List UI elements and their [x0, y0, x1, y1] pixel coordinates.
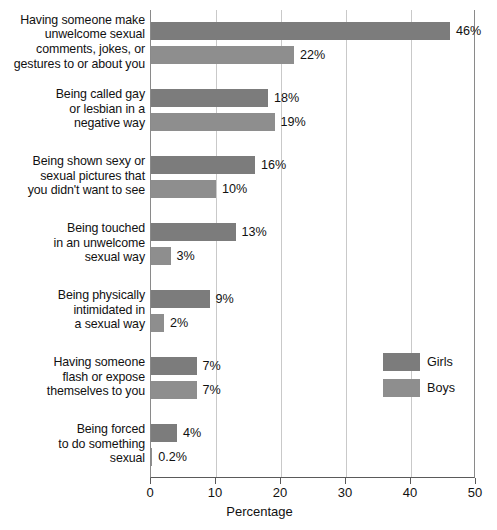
- legend-item-girls: Girls: [383, 352, 455, 371]
- bar-value-girls-1: 18%: [268, 89, 299, 107]
- category-label-2: Being shown sexy orsexual pictures thaty…: [0, 154, 145, 198]
- category-label-line: Being touched: [0, 221, 145, 236]
- legend-label-boys: Boys: [427, 381, 455, 395]
- category-label-line: themselves to you: [0, 384, 145, 399]
- category-label-line: sexual pictures that: [0, 169, 145, 184]
- x-tick-label-40: 40: [403, 485, 417, 500]
- bar-girls-6: [151, 424, 177, 442]
- category-label-5: Having someoneflash or exposethemselves …: [0, 355, 145, 399]
- bar-boys-0: [151, 46, 294, 64]
- x-tick-label-0: 0: [146, 485, 153, 500]
- legend-label-girls: Girls: [427, 355, 453, 369]
- category-label-4: Being physicallyintimidated ina sexual w…: [0, 288, 145, 332]
- bar-value-boys-3: 3%: [171, 247, 195, 265]
- x-axis-title-text: Percentage: [226, 504, 293, 519]
- category-label-line: intimidated in: [0, 303, 145, 318]
- bar-value-girls-5: 7%: [197, 357, 221, 375]
- bar-value-girls-0: 46%: [450, 22, 481, 40]
- category-label-0: Having someone makeunwelcome sexualcomme…: [0, 13, 145, 71]
- category-label-line: Being called gay: [0, 87, 145, 102]
- category-label-line: to do something: [0, 437, 145, 452]
- bar-value-boys-1: 19%: [275, 113, 306, 131]
- gridline-10: [216, 10, 217, 477]
- category-label-line: Being physically: [0, 288, 145, 303]
- x-tick-label-20: 20: [273, 485, 287, 500]
- bar-value-boys-4: 2%: [164, 314, 188, 332]
- bar-boys-2: [151, 180, 216, 198]
- category-label-line: or lesbian in a: [0, 102, 145, 117]
- category-label-line: a sexual way: [0, 317, 145, 332]
- bar-value-boys-2: 10%: [216, 180, 247, 198]
- bar-value-boys-6: 0.2%: [152, 448, 187, 466]
- legend-swatch-boys: [383, 379, 420, 397]
- bar-boys-1: [151, 113, 275, 131]
- category-label-line: in an unwelcome: [0, 236, 145, 251]
- bar-girls-4: [151, 290, 210, 308]
- plot-area: 46%22%18%19%16%10%13%3%9%2%7%7%4%0.2%: [150, 10, 475, 478]
- bar-value-boys-0: 22%: [294, 46, 325, 64]
- category-label-line: flash or expose: [0, 370, 145, 385]
- x-axis-title: Percentage: [0, 504, 497, 519]
- bar-girls-3: [151, 223, 236, 241]
- x-tick-label-30: 30: [338, 485, 352, 500]
- x-tick-label-10: 10: [208, 485, 222, 500]
- category-label-line: you didn't want to see: [0, 183, 145, 198]
- x-tick-label-50: 50: [468, 485, 482, 500]
- category-label-line: unwelcome sexual: [0, 27, 145, 42]
- chart-legend: Girls Boys: [383, 352, 455, 404]
- category-label-1: Being called gayor lesbian in anegative …: [0, 87, 145, 131]
- x-tick-30: [345, 478, 346, 484]
- x-tick-0: [150, 478, 151, 484]
- bar-value-boys-5: 7%: [197, 381, 221, 399]
- gridline-20: [281, 10, 282, 477]
- bar-boys-3: [151, 247, 171, 265]
- category-label-line: Being forced: [0, 422, 145, 437]
- legend-item-boys: Boys: [383, 378, 455, 397]
- bar-girls-2: [151, 156, 255, 174]
- x-tick-20: [280, 478, 281, 484]
- category-label-line: negative way: [0, 116, 145, 131]
- bar-chart: Having someone makeunwelcome sexualcomme…: [0, 0, 497, 530]
- x-tick-40: [410, 478, 411, 484]
- bar-value-girls-4: 9%: [210, 290, 234, 308]
- category-label-line: sexual way: [0, 250, 145, 265]
- category-label-line: Having someone make: [0, 13, 145, 28]
- gridline-40: [411, 10, 412, 477]
- bar-value-girls-6: 4%: [177, 424, 201, 442]
- bar-boys-5: [151, 381, 197, 399]
- bar-boys-4: [151, 314, 164, 332]
- category-label-line: Being shown sexy or: [0, 154, 145, 169]
- bar-girls-1: [151, 89, 268, 107]
- legend-swatch-girls: [383, 353, 420, 371]
- category-label-line: gestures to or about you: [0, 57, 145, 72]
- x-tick-10: [215, 478, 216, 484]
- bar-value-girls-2: 16%: [255, 156, 286, 174]
- gridline-30: [346, 10, 347, 477]
- bar-girls-5: [151, 357, 197, 375]
- category-label-line: sexual: [0, 451, 145, 466]
- category-label-line: comments, jokes, or: [0, 42, 145, 57]
- bar-value-girls-3: 13%: [236, 223, 267, 241]
- x-tick-50: [475, 478, 476, 484]
- category-label-6: Being forcedto do somethingsexual: [0, 422, 145, 466]
- category-label-line: Having someone: [0, 355, 145, 370]
- category-label-3: Being touchedin an unwelcomesexual way: [0, 221, 145, 265]
- bar-girls-0: [151, 22, 450, 40]
